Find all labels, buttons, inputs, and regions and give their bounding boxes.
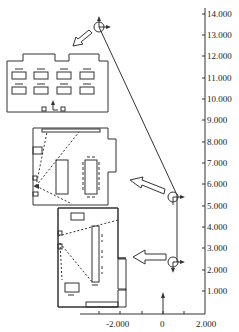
svg-text:11.000: 11.000 [207,73,232,83]
svg-text:10.000: 10.000 [207,94,232,104]
diagram-canvas: 14.000 13.000 12.000 11.000 10.000 9.000… [0,0,239,332]
svg-text:2.000: 2.000 [196,319,217,329]
camera-fov-bottom [58,220,118,282]
svg-text:13.000: 13.000 [207,30,232,40]
camera-fov-middle [36,132,79,204]
svg-text:9.000: 9.000 [207,115,228,125]
floorplan-middle [33,128,116,205]
svg-text:12.000: 12.000 [207,51,232,61]
hollow-arrow-bottom [133,250,166,264]
floorplan-bottom [58,208,126,307]
desk-row-2 [12,84,94,94]
svg-text:4.000: 4.000 [207,222,228,232]
trajectory-segment-1 [99,27,177,195]
y-axis-labels: 14.000 13.000 12.000 11.000 10.000 9.000… [207,9,232,296]
svg-text:6.000: 6.000 [207,179,228,189]
hollow-arrow-middle [130,177,165,194]
pose-top-marker [94,16,111,32]
hollow-arrow-top [73,30,92,46]
desk-row-1 [12,69,94,79]
svg-text:7.000: 7.000 [207,158,228,168]
svg-text:14.000: 14.000 [207,9,232,19]
svg-text:0: 0 [160,319,165,329]
svg-text:1.000: 1.000 [207,286,228,296]
svg-text:5.000: 5.000 [207,201,228,211]
x-axis-labels: -2.000 0 2.000 [106,319,217,329]
svg-text:8.000: 8.000 [207,137,228,147]
svg-text:-2.000: -2.000 [106,319,130,329]
floorplan-top [7,54,108,112]
svg-text:3.000: 3.000 [207,243,228,253]
svg-text:2.000: 2.000 [207,265,228,275]
